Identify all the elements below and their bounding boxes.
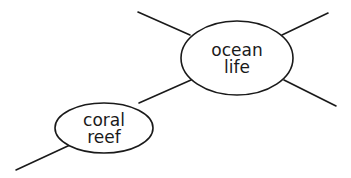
edges-group	[16, 12, 336, 170]
node-label-line: life	[224, 57, 250, 77]
edge-ocean-branch-top-right	[282, 13, 328, 35]
diagram-canvas: oceanlifecoralreef	[0, 0, 351, 178]
edge-coral-to-ocean	[139, 80, 191, 103]
edge-coral-branch-bottom-left	[16, 145, 70, 170]
node-ocean-life: oceanlife	[181, 21, 293, 95]
node-label-line: reef	[87, 127, 122, 147]
edge-ocean-branch-bottom-right	[284, 80, 336, 106]
edge-ocean-branch-top-left	[138, 12, 190, 35]
mind-map-diagram: oceanlifecoralreef	[0, 0, 351, 178]
node-coral-reef: coralreef	[55, 103, 153, 153]
